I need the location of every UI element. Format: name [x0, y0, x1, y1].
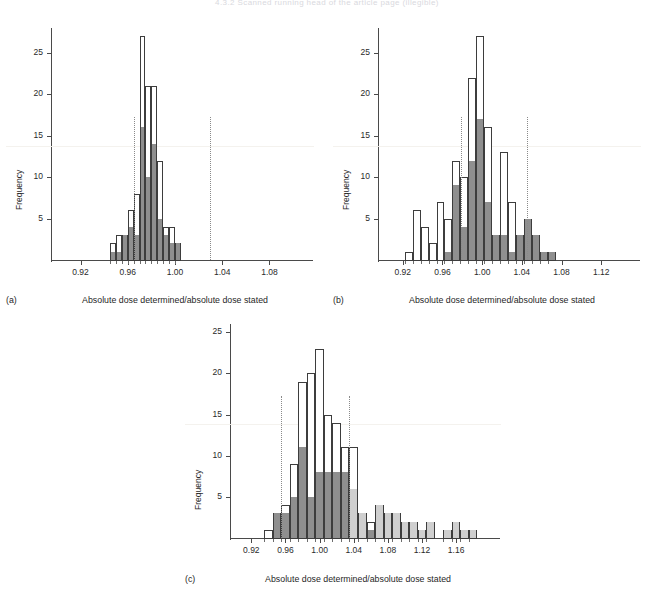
plot-b-bar-total	[429, 243, 437, 261]
plot-a-bar-dark-segment	[146, 177, 150, 260]
plot-c-x-tick-label: 0.96	[270, 545, 300, 555]
plot-a-x-tick-label: 1.04	[207, 267, 237, 277]
plot-a-x-minor-tick	[163, 261, 164, 264]
plot-c-x-tick	[456, 539, 457, 543]
plot-c-x-minor-tick	[469, 539, 470, 542]
plot-c-x-tick	[422, 539, 423, 543]
plot-b-x-tick	[522, 261, 523, 265]
plot-a-x-minor-tick	[140, 261, 141, 264]
plot-b-x-minor-tick	[460, 261, 461, 264]
plot-b-x-minor-tick	[444, 261, 445, 264]
plot-b-x-tick-label: 0.92	[388, 267, 418, 277]
plot-b-reference-line	[461, 117, 462, 260]
plot-c-y-tick	[226, 456, 230, 457]
plot-a-x-minor-tick	[122, 261, 123, 264]
plot-b-y-tick	[374, 219, 378, 220]
plot-b-x-tick-label: 0.96	[427, 267, 457, 277]
plot-a-x-minor-tick	[145, 261, 146, 264]
plot-a-y-tick	[47, 219, 51, 220]
plot-b-x-tick-label: 1.12	[586, 267, 616, 277]
plot-c-bar-light-segment	[402, 522, 409, 538]
plot-b-x-minor-tick	[524, 261, 525, 264]
plot-c-y-axis	[230, 324, 231, 540]
plot-c-x-tick	[320, 539, 321, 543]
plot-c-x-minor-tick	[384, 539, 385, 542]
plot-c-bar-total	[264, 530, 273, 539]
plot-a-y-tick-label: 25	[21, 47, 43, 57]
plot-b-bar-dark-segment	[501, 235, 507, 260]
plot-b-x-tick	[403, 261, 404, 265]
plot-c-bar-light-segment	[376, 505, 383, 538]
plot-a-bar-dark-segment	[129, 227, 133, 260]
plot-a-scan-artifact	[6, 146, 314, 147]
plot-c-bar-light-segment	[461, 530, 468, 538]
plot-c-x-tick-label: 0.92	[236, 545, 266, 555]
plot-a-bar-dark-segment	[135, 235, 139, 260]
plot-b-x-tick	[601, 261, 602, 265]
plot-c-bar-dark-segment	[368, 530, 375, 538]
plot-a-bar-dark-segment	[164, 235, 168, 260]
plot-b-y-tick	[374, 136, 378, 137]
plot-b-bar-dark-segment	[477, 119, 483, 260]
panel-b-plot-area: 5101520250.920.961.001.041.081.12	[378, 28, 626, 260]
plot-b-bar-dark-segment	[445, 252, 451, 260]
plot-c-x-minor-tick	[375, 539, 376, 542]
plot-c-bar-light-segment	[350, 489, 357, 538]
plot-b-y-tick-label: 20	[348, 88, 370, 98]
plot-a-reference-line	[210, 117, 211, 260]
plot-b-y-tick-label: 10	[348, 171, 370, 181]
plot-b-x-minor-tick	[468, 261, 469, 264]
plot-b-x-minor-tick	[437, 261, 438, 264]
plot-c-x-tick	[354, 539, 355, 543]
plot-b-bar-dark-segment	[533, 235, 539, 260]
plot-c-bar-dark-segment	[333, 472, 340, 538]
plot-b-y-tick	[374, 94, 378, 95]
plot-a-x-tick	[222, 261, 223, 265]
plot-c-x-minor-tick	[426, 539, 427, 542]
panel-b-tag: (b)	[333, 295, 344, 305]
plot-c-bar-light-segment	[410, 522, 417, 538]
plot-a-bar-dark-segment	[152, 144, 156, 260]
panel-a-plot-area: 5101520250.920.961.001.041.08	[51, 28, 299, 260]
plot-b-x-tick	[482, 261, 483, 265]
plot-b-x-minor-tick	[421, 261, 422, 264]
plot-b-x-minor-tick	[548, 261, 549, 264]
plot-c-x-minor-tick	[401, 539, 402, 542]
plot-c-x-minor-tick	[367, 539, 368, 542]
plot-c-bar-light-segment	[470, 530, 477, 538]
plot-a-y-tick	[47, 53, 51, 54]
plot-b-x-minor-tick	[452, 261, 453, 264]
plot-c-x-tick-label: 1.12	[407, 545, 437, 555]
plot-c-x-tick-label: 1.04	[339, 545, 369, 555]
panel-c-plot-area: 5101520250.920.961.001.041.081.121.16	[230, 324, 486, 538]
plot-c-x-tick	[285, 539, 286, 543]
plot-b-bar-total	[413, 210, 421, 261]
plot-c-x-minor-tick	[315, 539, 316, 542]
plot-c-bar-dark-segment	[316, 472, 323, 538]
plot-c-bar-dark-segment	[342, 472, 349, 538]
plot-c-reference-line	[281, 396, 282, 538]
plot-b-bar-total	[405, 252, 413, 261]
plot-c-y-tick	[226, 332, 230, 333]
plot-a-bar-dark-segment	[158, 219, 162, 260]
plot-b-y-tick-label: 5	[348, 213, 370, 223]
panel-c: Frequency 5101520250.920.961.001.041.081…	[163, 312, 503, 598]
panel-c-tag: (c)	[185, 574, 195, 584]
plot-b-x-tick-label: 1.00	[467, 267, 497, 277]
plot-a-bar-dark-segment	[111, 252, 115, 260]
plot-c-x-minor-tick	[290, 539, 291, 542]
plot-a-bar-dark-segment	[176, 243, 180, 260]
plot-c-y-tick	[226, 373, 230, 374]
plot-b-x-minor-tick	[500, 261, 501, 264]
plot-c-x-minor-tick	[392, 539, 393, 542]
plot-a-bar-dark-segment	[141, 127, 145, 260]
plot-c-x-tick-label: 1.00	[305, 545, 335, 555]
plot-a-reference-line	[134, 117, 135, 260]
panel-b: Frequency 5101520250.920.961.001.041.081…	[327, 10, 654, 310]
plot-b-reference-line	[527, 117, 528, 260]
plot-a-x-tick-label: 0.92	[66, 267, 96, 277]
plot-a-y-tick	[47, 177, 51, 178]
plot-a-bar-dark-segment	[123, 235, 127, 260]
plot-c-bar-dark-segment	[325, 472, 332, 538]
plot-a-x-tick-label: 0.96	[113, 267, 143, 277]
